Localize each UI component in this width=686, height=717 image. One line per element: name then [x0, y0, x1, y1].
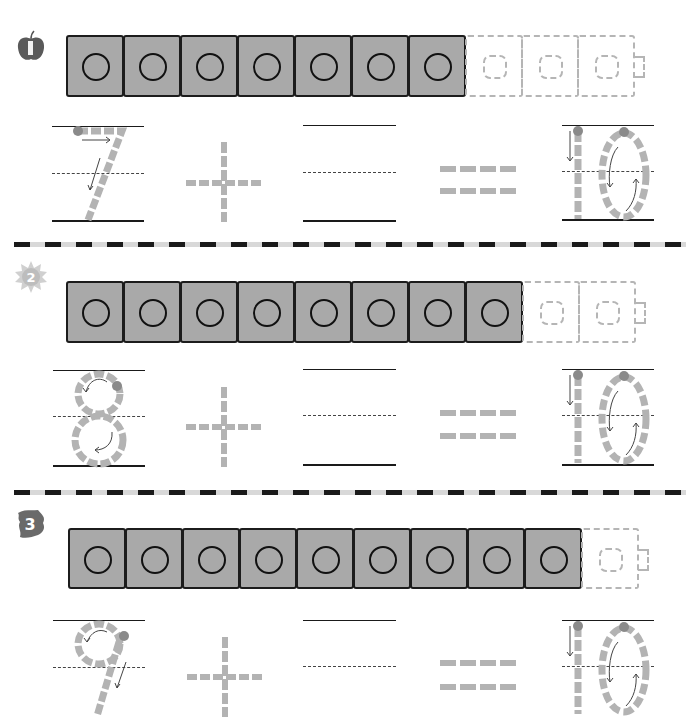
cube	[123, 281, 181, 343]
cube	[351, 281, 409, 343]
writing-mid-line	[562, 666, 654, 667]
dashed-circle-icon	[483, 55, 507, 79]
ghost-cube	[522, 281, 580, 343]
problem-1: 1 7 + = 10	[0, 0, 686, 244]
equals-sign-bottom	[440, 188, 516, 194]
equals-sign-bottom	[440, 433, 516, 439]
writing-top-line	[53, 370, 145, 371]
trace-digit-10	[562, 369, 654, 464]
cube	[237, 35, 295, 97]
writing-top-line	[53, 620, 145, 621]
cube	[410, 528, 468, 589]
circle-icon	[139, 299, 167, 327]
trace-digit-10	[562, 125, 654, 220]
writing-base-line	[562, 464, 654, 466]
cube	[467, 528, 525, 589]
cube-connector	[638, 549, 649, 571]
answer-top-line[interactable]	[303, 620, 396, 621]
equals-sign-top	[440, 166, 516, 172]
answer-mid-line[interactable]	[303, 415, 396, 416]
plus-sign-vertical	[221, 387, 227, 467]
cube	[408, 35, 466, 97]
writing-top-line	[562, 369, 654, 370]
circle-icon	[141, 546, 169, 574]
cube-train	[66, 35, 656, 97]
plus-sign-horizontal	[186, 424, 262, 430]
cube	[180, 35, 238, 97]
dashed-circle-icon	[599, 548, 623, 572]
dashed-circle-icon	[596, 301, 620, 325]
answer-mid-line[interactable]	[303, 172, 396, 173]
cube	[68, 528, 126, 589]
cube	[66, 35, 124, 97]
cube	[294, 281, 352, 343]
section-divider	[14, 242, 686, 247]
dashed-circle-icon	[595, 55, 619, 79]
circle-icon	[424, 299, 452, 327]
cube	[182, 528, 240, 589]
trace-digit-9	[53, 620, 145, 716]
answer-top-line[interactable]	[303, 125, 396, 126]
cube	[125, 528, 183, 589]
cube	[180, 281, 238, 343]
cube	[294, 35, 352, 97]
cube	[408, 281, 466, 343]
cube	[296, 528, 354, 589]
writing-mid-line	[53, 416, 145, 417]
leaf-icon: 3	[14, 507, 48, 541]
cube-train	[68, 528, 658, 589]
plus-sign-vertical	[222, 637, 228, 717]
circle-icon	[367, 299, 395, 327]
trace-digit-8	[53, 370, 145, 466]
equals-sign-bottom	[440, 684, 516, 690]
ghost-cube	[577, 35, 635, 97]
circle-icon	[426, 546, 454, 574]
circle-icon	[312, 546, 340, 574]
circle-icon	[310, 53, 338, 81]
answer-top-line[interactable]	[303, 369, 396, 370]
circle-icon	[139, 53, 167, 81]
writing-mid-line	[53, 667, 145, 668]
cube-connector	[635, 302, 646, 324]
circle-icon	[253, 53, 281, 81]
circle-icon	[196, 299, 224, 327]
circle-icon	[198, 546, 226, 574]
circle-icon	[369, 546, 397, 574]
answer-base-line[interactable]	[303, 220, 396, 222]
cube	[465, 281, 523, 343]
circle-icon	[82, 53, 110, 81]
cube	[524, 528, 582, 589]
dashed-circle-icon	[540, 301, 564, 325]
cube	[239, 528, 297, 589]
equals-sign-top	[440, 410, 516, 416]
writing-top-line	[562, 620, 654, 621]
cube	[66, 281, 124, 343]
cube-connector	[634, 56, 645, 78]
cube-train	[66, 281, 656, 343]
ghost-cube	[581, 528, 639, 589]
answer-base-line[interactable]	[303, 464, 396, 466]
circle-icon	[84, 546, 112, 574]
ghost-cube	[578, 281, 636, 343]
sun-icon: 2	[14, 260, 48, 294]
plus-sign-horizontal	[187, 674, 263, 680]
section-divider	[14, 490, 686, 495]
circle-icon	[367, 53, 395, 81]
ghost-cube	[465, 35, 523, 97]
writing-mid-line	[562, 415, 654, 416]
svg-text:3: 3	[24, 515, 35, 534]
trace-digit-10	[562, 620, 654, 715]
cube	[351, 35, 409, 97]
equals-sign-top	[440, 660, 516, 666]
dashed-circle-icon	[539, 55, 563, 79]
circle-icon	[196, 53, 224, 81]
cube	[353, 528, 411, 589]
circle-icon	[540, 546, 568, 574]
writing-base-line	[53, 465, 145, 467]
circle-icon	[310, 299, 338, 327]
answer-mid-line[interactable]	[303, 666, 396, 667]
svg-text:2: 2	[26, 270, 35, 285]
circle-icon	[424, 53, 452, 81]
plus-sign-vertical	[221, 142, 227, 222]
circle-icon	[483, 546, 511, 574]
